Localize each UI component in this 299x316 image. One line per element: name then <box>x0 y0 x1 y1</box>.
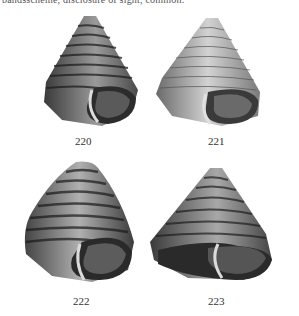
shell-figure-222 <box>22 158 140 284</box>
shell-figure-223 <box>148 164 278 286</box>
cropped-caption-text: bandsscheme, disclosure of sight, common… <box>2 0 184 5</box>
figure-label-221: 221 <box>208 135 225 147</box>
shell-figure-220 <box>42 12 142 130</box>
figure-label-223: 223 <box>208 295 225 307</box>
shell-figure-221 <box>152 12 270 130</box>
figure-label-222: 222 <box>73 295 90 307</box>
figure-label-220: 220 <box>75 135 92 147</box>
